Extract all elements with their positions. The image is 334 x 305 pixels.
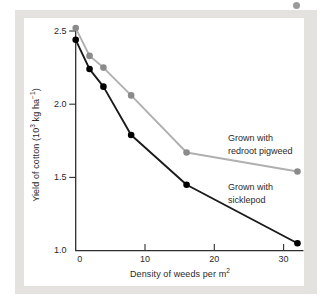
series-label-redroot-pigweed: Grown with redroot pigweed	[228, 132, 293, 158]
data-point-redroot-pigweed	[86, 53, 93, 60]
x-tick-label: 20	[209, 254, 219, 264]
y-tick-label: 1.5	[54, 172, 67, 182]
x-tick-label: 0	[77, 254, 82, 264]
x-axis-title-superscript: 2	[226, 267, 230, 274]
series-label-line: sicklepod	[228, 194, 273, 207]
y-axis-title-text: Yield of cotton (10	[31, 128, 41, 202]
x-axis-title-text: Density of weeds per m	[130, 269, 226, 279]
data-point-sicklepod	[72, 36, 79, 43]
data-point-sicklepod	[294, 240, 301, 247]
x-tick-label: 30	[279, 254, 289, 264]
y-tick-label: 2.5	[54, 26, 67, 36]
data-point-sicklepod	[86, 66, 93, 73]
data-point-redroot-pigweed	[183, 149, 190, 156]
series-label-sicklepod: Grown with sicklepod	[228, 181, 273, 207]
data-point-redroot-pigweed	[294, 168, 301, 175]
x-tick-label: 10	[140, 254, 150, 264]
y-tick-label: 1.0	[54, 245, 67, 255]
y-axis-title-text: kg ha	[31, 99, 41, 124]
figure-page: 01020302.52.01.51.0 Yield of cotton (103…	[0, 0, 334, 305]
series-label-line: Grown with	[228, 132, 293, 145]
y-tick-label: 2.0	[54, 99, 67, 109]
y-axis-title-superscript: 3	[29, 124, 36, 128]
y-axis-title-superscript: −1	[29, 91, 36, 99]
data-point-redroot-pigweed	[72, 25, 79, 32]
data-point-redroot-pigweed	[100, 64, 107, 71]
x-axis-title: Density of weeds per m2	[130, 269, 230, 279]
data-point-sicklepod	[183, 181, 190, 188]
series-label-line: Grown with	[228, 181, 273, 194]
data-point-redroot-pigweed	[128, 92, 135, 99]
data-point-sicklepod	[128, 132, 135, 139]
data-point-sicklepod	[100, 83, 107, 90]
y-axis-title: Yield of cotton (103 kg ha−1)	[31, 88, 41, 202]
series-label-line: redroot pigweed	[228, 145, 293, 158]
